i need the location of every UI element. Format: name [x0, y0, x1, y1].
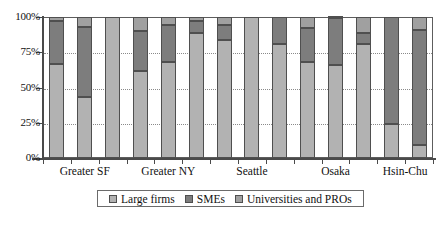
bar: [384, 17, 399, 158]
bar-segment-universities-and-pros: [217, 17, 232, 25]
bar-segment-large-firms: [217, 40, 232, 158]
gridline-75: [44, 53, 432, 54]
bar: [49, 17, 64, 158]
x-tick-8: [266, 159, 267, 164]
chart-legend: Large firmsSMEsUniversities and PROs: [97, 190, 364, 207]
bar-segment-large-firms: [133, 71, 148, 158]
bar-segment-large-firms: [49, 64, 64, 158]
bar-segment-universities-and-pros: [189, 17, 204, 21]
legend-swatch-icon: [185, 195, 193, 203]
bar: [328, 17, 343, 158]
bar: [77, 17, 92, 158]
gridline-25: [44, 124, 432, 125]
bar-segment-smes: [412, 30, 427, 146]
bar-segment-universities-and-pros: [161, 17, 176, 25]
stacked-bar-chart: 100%75%50%25%0% Greater SFGreater NYSeat…: [0, 0, 440, 225]
bar-segment-smes: [133, 31, 148, 70]
bar: [133, 17, 148, 158]
bar-segment-universities-and-pros: [77, 17, 92, 27]
bar-segment-smes: [77, 27, 92, 98]
bar-segment-universities-and-pros: [133, 17, 148, 31]
bar-segment-universities-and-pros: [356, 17, 371, 33]
bar: [300, 17, 315, 158]
bar-segment-smes: [300, 28, 315, 62]
bar-segment-large-firms: [105, 17, 120, 158]
y-axis-label-50: 50%: [20, 82, 40, 93]
bar-segment-smes: [49, 21, 64, 63]
bar-segment-universities-and-pros: [328, 16, 343, 18]
bar-segment-smes: [161, 25, 176, 62]
x-tick-4: [154, 159, 155, 164]
bar-segment-universities-and-pros: [412, 17, 427, 30]
x-tick-6: [210, 159, 211, 164]
y-axis-label-100: 100%: [15, 11, 40, 22]
bar-segment-smes: [328, 18, 343, 65]
bar: [244, 17, 259, 158]
bar-segment-large-firms: [161, 62, 176, 158]
bar-segment-smes: [272, 17, 287, 44]
bar: [105, 17, 120, 158]
bar-segment-large-firms: [272, 44, 287, 158]
x-tick-14: [433, 159, 434, 164]
bar: [272, 17, 287, 158]
x-tick-2: [99, 159, 100, 164]
bar-segment-large-firms: [356, 44, 371, 158]
bar-segment-smes: [384, 17, 399, 124]
x-tick-10: [322, 159, 323, 164]
legend-label: SMEs: [197, 193, 225, 205]
x-tick-0: [43, 159, 44, 164]
bar-segment-large-firms: [328, 65, 343, 158]
y-axis-label-25: 25%: [20, 117, 40, 128]
bar-segment-smes: [189, 21, 204, 32]
category-label-osaka: Osaka: [321, 165, 350, 177]
bar: [189, 17, 204, 158]
category-label-greater-ny: Greater NY: [141, 165, 195, 177]
bar-segment-smes: [356, 33, 371, 44]
x-tick-12: [377, 159, 378, 164]
category-label-greater-sf: Greater SF: [60, 165, 110, 177]
x-tick-7: [238, 159, 239, 164]
legend-label: Universities and PROs: [247, 193, 352, 205]
bar: [356, 17, 371, 158]
category-label-hsin-chu: Hsin-Chu: [383, 165, 428, 177]
bar-segment-large-firms: [77, 97, 92, 158]
legend-item: Large firms: [109, 193, 175, 205]
x-tick-5: [182, 159, 183, 164]
x-tick-3: [127, 159, 128, 164]
bar: [412, 17, 427, 158]
legend-swatch-icon: [109, 195, 117, 203]
x-axis-line: [32, 158, 436, 160]
gridline-50: [44, 89, 432, 90]
x-tick-1: [71, 159, 72, 164]
bar-segment-universities-and-pros: [49, 17, 64, 21]
bar-segment-large-firms: [189, 33, 204, 158]
category-label-seattle: Seattle: [236, 165, 267, 177]
bar-segment-large-firms: [300, 62, 315, 158]
x-tick-13: [405, 159, 406, 164]
legend-swatch-icon: [235, 195, 243, 203]
bar-segment-large-firms: [412, 145, 427, 158]
y-axis-label-75: 75%: [20, 46, 40, 57]
legend-item: Universities and PROs: [235, 193, 352, 205]
bar: [217, 17, 232, 158]
plot-area: [43, 17, 433, 158]
x-tick-9: [294, 159, 295, 164]
legend-label: Large firms: [121, 193, 175, 205]
y-axis-label-0: 0%: [26, 152, 40, 163]
bar-segment-large-firms: [244, 17, 259, 158]
bar: [161, 17, 176, 158]
x-tick-11: [349, 159, 350, 164]
bar-segment-large-firms: [384, 124, 399, 158]
bar-segment-smes: [217, 25, 232, 39]
bar-segment-universities-and-pros: [300, 17, 315, 28]
legend-item: SMEs: [185, 193, 225, 205]
